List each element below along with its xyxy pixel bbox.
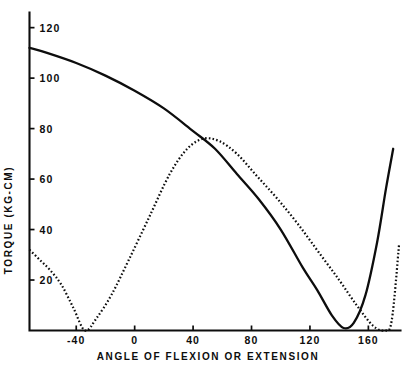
x-tick-label: 0 <box>131 334 138 346</box>
dotted-curve-path <box>30 138 400 331</box>
x-tick-label: 40 <box>186 334 200 346</box>
data-curves <box>30 48 400 331</box>
solid-curve-path <box>30 48 394 329</box>
x-axis-title: ANGLE OF FLEXION OR EXTENSION <box>97 351 320 362</box>
y-axis-tick-labels: 20406080100120 <box>40 22 61 286</box>
x-axis-tick-labels: -4004080120160 <box>67 334 379 346</box>
y-axis-title: TORQUE (KG-CM) <box>3 166 14 274</box>
x-tick-label: 120 <box>300 334 321 346</box>
y-tick-label: 60 <box>40 173 54 185</box>
y-tick-label: 20 <box>40 274 54 286</box>
x-tick-label: 80 <box>245 334 259 346</box>
y-tick-label: 120 <box>40 22 61 34</box>
y-tick-label: 40 <box>40 224 54 236</box>
chart-figure: -4004080120160 20406080100120 ANGLE OF F… <box>0 0 415 366</box>
x-tick-label: 160 <box>358 334 379 346</box>
y-tick-label: 80 <box>40 123 54 135</box>
y-tick-label: 100 <box>40 72 61 84</box>
chart-canvas: -4004080120160 20406080100120 ANGLE OF F… <box>0 0 415 366</box>
axis-lines <box>30 13 401 331</box>
axes-group <box>30 13 401 331</box>
x-tick-label: -40 <box>67 334 85 346</box>
